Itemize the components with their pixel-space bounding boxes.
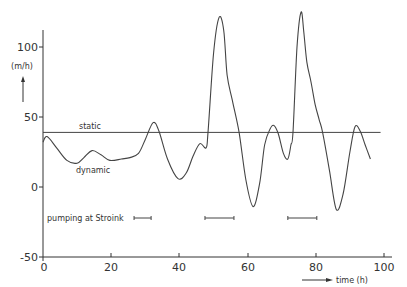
y-axis-label: (m/h): [11, 62, 33, 71]
static-label: static: [79, 122, 101, 131]
chart: 100 50 0 -50 0 20 40 60 80 100 (m/h) tim…: [0, 0, 407, 287]
pumping-interval: [205, 216, 234, 220]
pumping-interval: [134, 216, 151, 220]
x-tick-label-100: 100: [374, 261, 395, 274]
x-tick-label-60: 60: [241, 261, 255, 274]
dynamic-series-line: [43, 12, 370, 211]
y-tick-label-minus50: -50: [20, 251, 38, 264]
x-tick-label-20: 20: [104, 261, 118, 274]
x-tick-label-80: 80: [309, 261, 323, 274]
y-tick-label-100: 100: [17, 41, 38, 54]
pumping-label: pumping at Stroink: [47, 214, 124, 223]
y-tick-label-0: 0: [31, 181, 38, 194]
up-arrow-icon: [21, 76, 25, 102]
pumping-interval: [288, 216, 317, 220]
x-tick-label-0: 0: [41, 261, 48, 274]
y-ticks: 100 50 0 -50: [17, 41, 43, 264]
x-axis-label: time (h): [336, 276, 368, 285]
dynamic-label: dynamic: [76, 166, 110, 175]
right-arrow-icon: [302, 278, 333, 282]
y-tick-label-50: 50: [24, 111, 38, 124]
pumping-intervals: [134, 216, 317, 220]
x-tick-label-40: 40: [172, 261, 186, 274]
x-ticks: 0 20 40 60 80 100: [41, 253, 395, 274]
